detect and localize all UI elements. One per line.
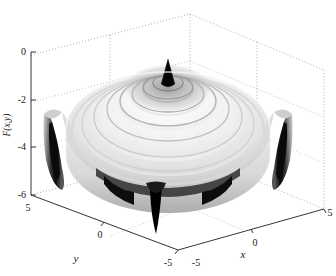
z-tick-0: 0 — [21, 46, 26, 57]
surface-plot-svg: 0 -2 -4 -6 5 0 -5 -5 0 5 F(x,y) y x — [0, 0, 336, 276]
x-axis-title: x — [240, 248, 246, 260]
z-tick-2: -4 — [18, 141, 26, 152]
z-tick-1: -2 — [18, 94, 26, 105]
surface-mesh — [43, 58, 292, 234]
y-tick-2: -5 — [164, 257, 172, 268]
y-tick-1: 0 — [98, 229, 103, 240]
z-axis-title: F(x,y) — [2, 114, 13, 138]
x-tick-1: 0 — [253, 237, 258, 248]
x-tick-2: 5 — [328, 207, 333, 218]
z-tick-3: -6 — [18, 189, 26, 200]
y-tick-0: 5 — [26, 202, 31, 213]
x-tick-0: -5 — [192, 257, 200, 268]
y-axis-title: y — [73, 252, 79, 264]
figure-canvas: 0 -2 -4 -6 5 0 -5 -5 0 5 F(x,y) y x — [0, 0, 336, 276]
